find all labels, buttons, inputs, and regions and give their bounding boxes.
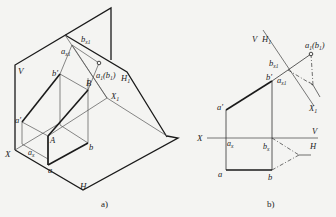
point-a1b1-marker bbox=[309, 52, 313, 56]
label-ax1-b: ax1 bbox=[277, 75, 287, 86]
label-x1-b: X1 bbox=[308, 103, 317, 114]
label-x: X bbox=[4, 149, 11, 159]
figure-a: V H X X1 H1 bx1 ax1 a1(b1) b′ a′ B A b a… bbox=[4, 8, 178, 209]
label-h1-b: H1 bbox=[261, 34, 271, 45]
caption-a: a) bbox=[101, 199, 108, 209]
label-h: H bbox=[79, 181, 87, 191]
label-v: V bbox=[18, 66, 25, 76]
h-plane bbox=[15, 136, 178, 190]
figure-b: V H1 a1(b1) bx1 b′ ax1 X1 a′ X V H ax bx… bbox=[196, 30, 325, 209]
label-a-b: a bbox=[218, 169, 222, 179]
caption-b: b) bbox=[267, 199, 275, 209]
label-point-b-upper: B bbox=[86, 78, 91, 88]
label-ax: ax bbox=[28, 148, 35, 158]
label-point-a-upper: A bbox=[49, 135, 56, 145]
label-ax1: ax1 bbox=[61, 46, 71, 57]
label-b-prime: b′ bbox=[52, 68, 58, 78]
dash-dot-construction bbox=[272, 54, 313, 170]
label-b-prime-b: b′ bbox=[266, 72, 272, 82]
label-a-prime-b: a′ bbox=[217, 102, 223, 112]
label-a: a bbox=[48, 165, 52, 175]
diagram-canvas: V H X X1 H1 bx1 ax1 a1(b1) b′ a′ B A b a… bbox=[0, 0, 336, 217]
label-x1: X1 bbox=[110, 91, 119, 102]
label-bx-b: bx bbox=[263, 142, 270, 152]
label-v-b: V bbox=[252, 34, 259, 44]
label-x-b: X bbox=[196, 133, 203, 143]
line-ab-projections bbox=[226, 81, 272, 170]
label-bx1: bx1 bbox=[81, 34, 91, 45]
label-bx1-b: bx1 bbox=[269, 58, 279, 69]
label-h-axis-b: H bbox=[309, 141, 317, 151]
label-a1b1-b: a1(b1) bbox=[305, 40, 325, 51]
label-b-b: b bbox=[268, 172, 272, 182]
label-b: b bbox=[89, 142, 93, 152]
label-a1b1: a1(b1) bbox=[96, 70, 116, 81]
point-a1b1-marker bbox=[97, 61, 101, 65]
label-v-axis-b: V bbox=[312, 126, 319, 136]
label-ax-b: ax bbox=[227, 139, 234, 149]
label-a-prime: a′ bbox=[15, 115, 21, 125]
